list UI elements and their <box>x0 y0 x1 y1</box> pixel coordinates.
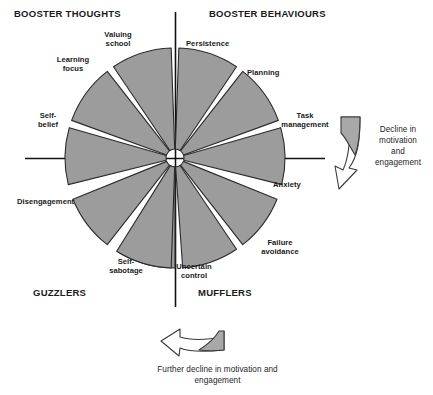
wedge-label-learning-focus: Learning focus <box>43 56 103 73</box>
wedge-label-persistence: Persistence <box>186 40 256 49</box>
bottom-arrow-caption: Further decline in motivation and engage… <box>125 364 310 386</box>
wedge-label-valuing-school: Valuing school <box>90 31 146 48</box>
quadrant-title-mufflers: MUFFLERS <box>198 288 252 299</box>
wedge-label-anxiety: Anxiety <box>273 181 325 190</box>
wedge-label-self-belief: Self- belief <box>25 112 71 129</box>
wedge-label-disengagement: Disengagement <box>17 198 101 207</box>
wedge-label-planning: Planning <box>247 69 307 78</box>
right-arrow-caption: Decline in motivation and engagement <box>366 124 430 168</box>
wedge-label-failure-avoidance: Failure avoidance <box>249 239 311 256</box>
diagram-canvas: BOOSTER THOUGHTS BOOSTER BEHAVIOURS GUZZ… <box>0 0 433 395</box>
right-arrow-icon <box>335 117 360 189</box>
wedge-label-self-sabotage: Self- sabotage <box>100 258 152 275</box>
wedge-label-uncertain-control: Uncertain control <box>165 263 223 280</box>
quadrant-title-booster-behaviours: BOOSTER BEHAVIOURS <box>209 9 326 20</box>
quadrant-title-guzzlers: GUZZLERS <box>33 288 86 299</box>
quadrant-title-booster-thoughts: BOOSTER THOUGHTS <box>14 9 121 20</box>
bottom-arrow-icon <box>161 329 224 356</box>
wedge-label-task-management: Task management <box>276 112 334 129</box>
